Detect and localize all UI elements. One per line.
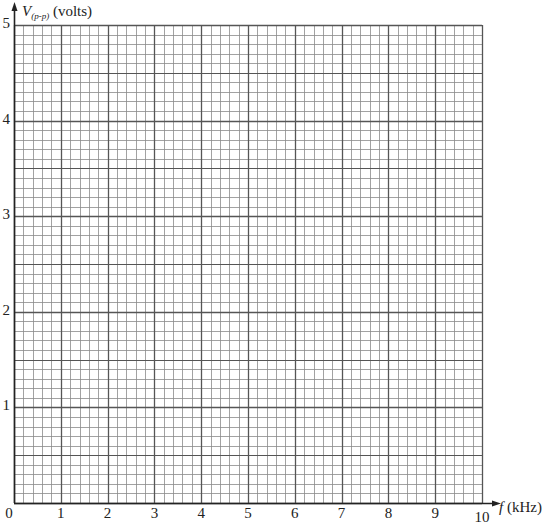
x-tick-label: 2 (96, 506, 120, 521)
x-tick-label: 10 (470, 510, 494, 525)
y-tick-label: 3 (0, 207, 10, 222)
y-axis-symbol: V (22, 3, 31, 19)
x-tick-label: 0 (0, 506, 21, 521)
x-axis-symbol: f (499, 499, 503, 515)
y-tick-label: 5 (0, 16, 10, 31)
x-tick-label: 1 (49, 506, 73, 521)
y-tick-label: 2 (0, 303, 10, 318)
x-tick-label: 6 (283, 506, 307, 521)
x-axis-unit: (kHz) (507, 499, 542, 515)
y-axis-unit: (volts) (53, 3, 92, 19)
x-tick-label: 9 (423, 506, 447, 521)
y-axis-subscript: (p-p) (31, 11, 49, 21)
x-tick-label: 4 (189, 506, 213, 521)
x-tick-label: 8 (376, 506, 400, 521)
y-axis-title: V(p-p) (volts) (22, 4, 92, 21)
x-tick-label: 3 (142, 506, 166, 521)
x-axis-title: f (kHz) (499, 500, 542, 515)
major-grid (14, 25, 483, 504)
y-tick-label: 1 (0, 398, 10, 413)
y-axis-arrow-icon (12, 2, 18, 11)
y-tick-label: 4 (0, 112, 10, 127)
x-tick-label: 5 (236, 506, 260, 521)
x-tick-label: 7 (330, 506, 354, 521)
